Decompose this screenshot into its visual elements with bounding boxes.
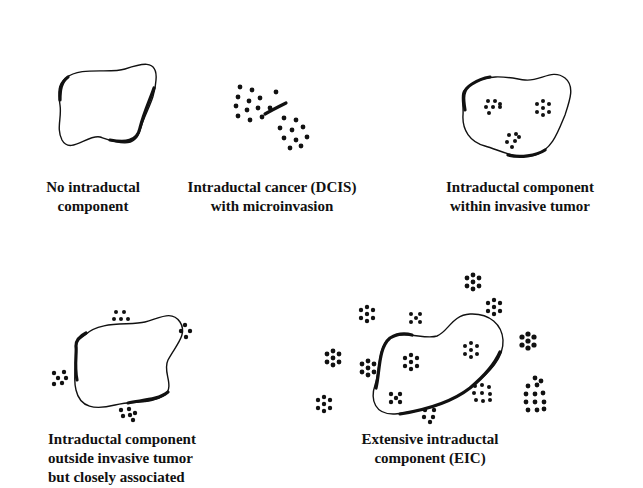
caption-line: but closely associated [48, 468, 196, 487]
cell-dot [492, 305, 496, 309]
cell-cluster [268, 106, 273, 111]
cell-dot [258, 96, 263, 101]
cell-cluster [282, 136, 287, 141]
cell-dot [535, 383, 540, 388]
cell-dot [398, 400, 402, 404]
cell-dot [389, 400, 393, 404]
cell-dot [56, 376, 60, 380]
cell-cluster [484, 99, 502, 115]
cell-dot [248, 118, 253, 123]
cell-dot [493, 99, 497, 103]
cell-dot [541, 99, 545, 103]
cell-dot [282, 136, 287, 141]
cell-dot [127, 407, 131, 411]
cell-dot [488, 398, 492, 402]
cell-dot [486, 99, 490, 103]
cell-dot [294, 138, 299, 143]
caption-line: within invasive tumor [425, 197, 615, 216]
cell-dot [542, 407, 547, 412]
cell-dot [365, 312, 369, 316]
cell-dot [114, 310, 118, 314]
cell-dot [463, 352, 467, 356]
cell-dot [236, 114, 241, 119]
cell-dot [535, 102, 539, 106]
tumor-outline [462, 74, 570, 156]
cell-dot [471, 287, 476, 292]
cell-dot [525, 331, 530, 336]
cell-dot [531, 342, 536, 347]
panel-dcis-illustration [234, 85, 310, 151]
tumor-outline-thick [76, 333, 86, 380]
cell-dot [294, 118, 299, 123]
cell-cluster [236, 95, 241, 100]
cell-dot [238, 85, 243, 90]
caption-within-invasive: Intraductal component within invasive tu… [425, 178, 615, 216]
cell-dot [394, 396, 398, 400]
cell-dot [322, 402, 326, 406]
cell-dot [418, 320, 422, 324]
cell-dot [505, 140, 509, 144]
cell-dot [328, 398, 332, 402]
cell-dot [533, 392, 538, 397]
cell-dot [365, 319, 369, 323]
cell-dot [403, 356, 407, 360]
cell-dot [133, 411, 137, 415]
cell-dot [331, 356, 336, 361]
panel-no-intraductal-illustration [59, 64, 156, 145]
cell-cluster [325, 349, 342, 368]
cell-cluster [301, 125, 306, 130]
cell-cluster [258, 96, 263, 101]
caption-line: Extensive intraductal [340, 430, 520, 449]
cell-cluster [535, 99, 551, 117]
panel-within-invasive-illustration [462, 74, 570, 156]
tumor-outline-thick [400, 352, 500, 414]
cell-dot [488, 392, 492, 396]
cell-dot [463, 344, 467, 348]
cell-dot [360, 362, 365, 367]
cell-dot [469, 341, 473, 345]
cell-dot [487, 385, 491, 389]
cell-dot [328, 406, 332, 410]
cell-dot [525, 338, 530, 343]
cell-dot [469, 348, 473, 352]
cell-dot [547, 102, 551, 106]
cell-dot [526, 384, 531, 389]
cell-dot [480, 383, 484, 387]
cell-dot [62, 370, 66, 374]
cell-dot [366, 359, 371, 364]
cell-dot [126, 317, 130, 321]
cell-dot [513, 139, 517, 143]
cell-dot [371, 308, 375, 312]
caption-line: component (EIC) [340, 449, 520, 468]
cell-cluster [236, 114, 241, 119]
cell-dot [250, 88, 255, 93]
cell-dot [486, 309, 490, 313]
cell-dot [428, 420, 432, 424]
cell-dot [492, 298, 496, 302]
cell-cluster [403, 353, 419, 371]
figure: No intraductal component Intraductal can… [0, 0, 643, 488]
cell-dot [245, 108, 250, 113]
cell-dot [535, 110, 539, 114]
cell-dot [179, 329, 183, 333]
cell-dot [359, 316, 363, 320]
cell-dot [121, 414, 125, 418]
cell-cluster [278, 126, 283, 131]
cell-cluster [260, 115, 265, 120]
cell-dot [247, 99, 252, 104]
cell-dot [498, 309, 502, 313]
cell-dot [372, 370, 377, 375]
cell-dot [472, 391, 476, 395]
cell-dot [188, 329, 192, 333]
cell-cluster [409, 312, 422, 324]
cell-dot [365, 305, 369, 309]
cell-dot [484, 105, 488, 109]
cell-dot [519, 334, 524, 339]
cell-dot [288, 146, 293, 151]
cell-dot [415, 356, 419, 360]
tumor-outline [373, 314, 503, 414]
cell-dot [331, 363, 336, 368]
cell-dot [471, 280, 476, 285]
cell-cluster [119, 407, 137, 422]
cell-dot [542, 400, 547, 405]
